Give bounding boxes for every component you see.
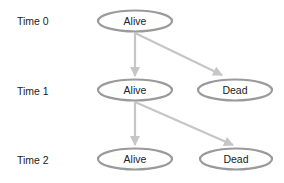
state-transition-diagram: Time 0 Time 1 Time 2 Alive Alive Dead Al… xyxy=(0,0,284,183)
time-label-0: Time 0 xyxy=(17,15,49,27)
node-label: Dead xyxy=(222,84,247,96)
node-label: Alive xyxy=(124,15,147,27)
node-t2-alive: Alive xyxy=(98,149,172,170)
time-label-1: Time 1 xyxy=(17,85,49,97)
node-t2-dead: Dead xyxy=(200,149,272,170)
time-labels: Time 0 Time 1 Time 2 xyxy=(17,15,49,166)
node-label: Alive xyxy=(124,84,147,96)
node-t0-alive: Alive xyxy=(98,11,172,32)
node-label: Dead xyxy=(223,153,248,165)
edge-t1-alive-to-t2-dead xyxy=(135,102,233,145)
time-label-2: Time 2 xyxy=(17,154,49,166)
node-t1-alive: Alive xyxy=(98,80,172,101)
node-t1-dead: Dead xyxy=(198,80,272,101)
edge-t0-alive-to-t1-dead xyxy=(135,33,222,75)
node-label: Alive xyxy=(124,153,147,165)
